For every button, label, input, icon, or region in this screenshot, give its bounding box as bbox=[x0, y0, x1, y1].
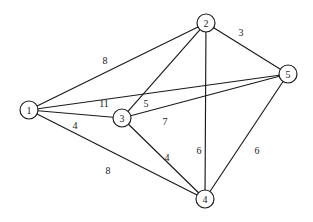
node-label-4: 4 bbox=[203, 194, 208, 205]
node-label-3: 3 bbox=[120, 113, 125, 124]
graph-node-5: 5 bbox=[279, 65, 297, 83]
graph-edge-1-5 bbox=[38, 75, 279, 109]
graph-edge-1-3 bbox=[38, 111, 113, 117]
graph-node-4: 4 bbox=[196, 190, 214, 208]
graph-edge-2-5 bbox=[214, 28, 281, 69]
edge-weight-1-2: 8 bbox=[103, 55, 108, 66]
edge-weight-2-5: 3 bbox=[239, 27, 244, 38]
edge-weight-1-5: 11 bbox=[99, 98, 109, 109]
graph-diagram: 81148563746 12345 bbox=[0, 0, 313, 222]
node-label-5: 5 bbox=[286, 69, 291, 80]
edges-layer bbox=[37, 27, 283, 195]
edge-weights-layer: 81148563746 bbox=[73, 27, 260, 176]
graph-node-2: 2 bbox=[197, 14, 215, 32]
nodes-layer: 12345 bbox=[20, 14, 297, 208]
graph-edge-1-4 bbox=[37, 114, 197, 195]
graph-edge-2-4 bbox=[205, 32, 206, 190]
edge-weight-1-4: 8 bbox=[106, 165, 111, 176]
edge-weight-3-5: 7 bbox=[163, 116, 168, 127]
edge-weight-2-4: 6 bbox=[197, 145, 202, 156]
node-label-1: 1 bbox=[27, 105, 32, 116]
edge-weight-2-3: 5 bbox=[144, 98, 149, 109]
graph-canvas: 81148563746 12345 bbox=[0, 0, 313, 222]
graph-node-1: 1 bbox=[20, 101, 38, 119]
graph-edge-2-3 bbox=[128, 30, 200, 112]
graph-edge-4-5 bbox=[210, 81, 283, 191]
graph-node-3: 3 bbox=[113, 109, 131, 127]
edge-weight-3-4: 4 bbox=[165, 152, 170, 163]
graph-edge-1-2 bbox=[37, 27, 198, 106]
edge-weight-1-3: 4 bbox=[73, 120, 78, 131]
graph-edge-3-4 bbox=[128, 124, 198, 192]
node-label-2: 2 bbox=[204, 18, 209, 29]
edge-weight-4-5: 6 bbox=[255, 145, 260, 156]
